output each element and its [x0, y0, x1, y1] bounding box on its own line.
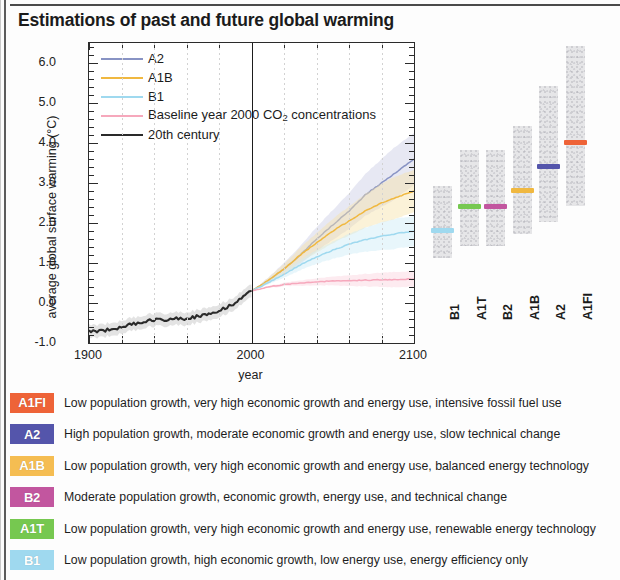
y-axis-tick: [405, 263, 414, 264]
scenario-range-bar-a2[interactable]: [536, 42, 562, 342]
x-axis-tick: [89, 43, 90, 50]
y-axis-tick: [409, 231, 414, 232]
y-axis-tick: [409, 287, 414, 288]
y-tick-label: 3.0: [20, 175, 56, 189]
scenario-range-bar-a1b[interactable]: [510, 42, 536, 342]
y-axis-tick: [409, 95, 414, 96]
y-axis-tick: [409, 271, 414, 272]
y-axis-tick: [89, 55, 94, 56]
best-estimate-marker: [431, 228, 454, 233]
vertical-gridline: [382, 43, 383, 343]
scenario-descriptions-legend: A1FILow population growth, very high eco…: [0, 387, 620, 576]
y-axis-tick: [89, 151, 94, 152]
scenario-row-a1b[interactable]: A1BLow population growth, very high econ…: [0, 450, 620, 482]
y-axis-tick: [89, 127, 94, 128]
series-uncertainty-band: [89, 285, 252, 339]
scenario-code-badge: A1B: [10, 456, 54, 476]
legend-item-label: Baseline year 2000 CO2 concentrations: [148, 108, 376, 123]
y-axis-tick: [409, 279, 414, 280]
legend-item-a1b[interactable]: A1B: [101, 68, 376, 87]
scenario-description: Low population growth, high economic gro…: [64, 553, 528, 567]
vertical-gridline: [219, 43, 220, 343]
best-estimate-marker: [511, 188, 534, 193]
y-axis-tick: [89, 215, 94, 216]
y-tick-label: 4.0: [20, 135, 56, 149]
scenario-row-b2[interactable]: B2Moderate population growth, economic g…: [0, 482, 620, 514]
y-axis-tick: [89, 239, 94, 240]
y-axis-tick: [89, 175, 94, 176]
range-extent: [460, 150, 479, 246]
scenario-row-a1t[interactable]: A1TLow population growth, very high econ…: [0, 513, 620, 545]
y-axis-tick: [409, 127, 414, 128]
range-extent: [566, 46, 585, 206]
y-axis-tick: [409, 327, 414, 328]
y-axis-tick: [89, 63, 98, 64]
scenario-code-badge: B1: [10, 550, 54, 570]
scenario-row-a2[interactable]: A2High population growth, moderate econo…: [0, 419, 620, 451]
legend-item-label: 20th century: [148, 128, 220, 141]
y-axis-tick: [89, 319, 94, 320]
y-axis-tick: [89, 287, 94, 288]
figure-page: Estimations of past and future global wa…: [0, 0, 620, 580]
scenario-description: Low population growth, very high economi…: [64, 522, 596, 536]
scenario-row-b1[interactable]: B1Low population growth, high economic g…: [0, 545, 620, 577]
y-axis-tick: [409, 319, 414, 320]
y-axis-tick: [405, 63, 414, 64]
scenario-description: Moderate population growth, economic gro…: [64, 490, 507, 504]
scenario-range-bar-b2[interactable]: [483, 42, 509, 342]
legend-item-a2[interactable]: A2: [101, 49, 376, 68]
y-axis-tick: [409, 199, 414, 200]
y-axis-tick: [405, 343, 414, 344]
scenario-row-a1fi[interactable]: A1FILow population growth, very high eco…: [0, 387, 620, 419]
y-axis-tick: [89, 295, 94, 296]
y-axis-tick: [89, 199, 94, 200]
vertical-gridline: [349, 43, 350, 343]
scenario-code-badge: A1T: [10, 519, 54, 539]
scenario-description: Low population growth, very high economi…: [64, 396, 562, 410]
y-axis-tick: [89, 207, 94, 208]
scenario-code-badge: A2: [10, 424, 54, 444]
y-tick-label: -1.0: [20, 335, 56, 349]
x-tick-label: 2100: [399, 348, 427, 362]
y-axis-tick: [89, 343, 98, 344]
y-axis-tick: [405, 103, 414, 104]
y-axis-tick: [409, 207, 414, 208]
y-axis-tick: [89, 103, 98, 104]
range-extent: [513, 126, 532, 234]
y-axis-tick: [89, 263, 98, 264]
y-axis-tick: [409, 239, 414, 240]
y-axis-tick: [89, 183, 98, 184]
y-axis-tick: [409, 119, 414, 120]
scenario-range-bar-a1fi[interactable]: [563, 42, 589, 342]
line-chart-plot-area: A2A1BB1Baseline year 2000 CO2 concentrat…: [88, 42, 415, 344]
y-axis-tick: [89, 143, 98, 144]
y-axis-tick-labels: -1.00.01.02.03.04.05.06.0: [16, 30, 56, 385]
vertical-gridline: [317, 43, 318, 343]
y-axis-tick: [89, 119, 94, 120]
x-tick-label: 1900: [74, 348, 102, 362]
legend-item-baseline-year-2000-co2-concentrations[interactable]: Baseline year 2000 CO2 concentrations: [101, 106, 376, 125]
chart-legend: A2A1BB1Baseline year 2000 CO2 concentrat…: [101, 49, 376, 144]
y-axis-tick: [409, 71, 414, 72]
scenario-range-bar-b1[interactable]: [430, 42, 456, 342]
best-estimate-marker: [564, 140, 587, 145]
y-axis-tick: [409, 311, 414, 312]
legend-item-20th-century[interactable]: 20th century: [101, 125, 376, 144]
y-axis-tick: [409, 111, 414, 112]
scenario-range-bar-a1t[interactable]: [457, 42, 483, 342]
y-tick-label: 0.0: [20, 295, 56, 309]
legend-item-b1[interactable]: B1: [101, 87, 376, 106]
scenario-description: High population growth, moderate economi…: [64, 427, 560, 441]
y-tick-label: 5.0: [20, 95, 56, 109]
best-estimate-marker: [458, 204, 481, 209]
y-axis-tick: [89, 271, 94, 272]
y-axis-tick: [405, 143, 414, 144]
y-axis-tick: [89, 279, 94, 280]
year-2000-reference-line: [252, 43, 254, 343]
legend-item-label: A1B: [148, 71, 173, 84]
y-axis-tick: [409, 87, 414, 88]
page-top-rule: [10, 4, 620, 6]
scenario-range-bars-panel: B1A1TB2A1BA2A1FI: [425, 42, 610, 342]
y-axis-tick: [405, 223, 414, 224]
scenario-code-badge: B2: [10, 487, 54, 507]
